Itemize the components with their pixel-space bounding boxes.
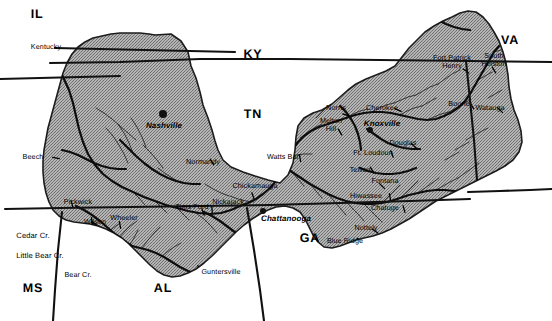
tributary-stream: [88, 227, 106, 246]
river-channel: [39, 22, 85, 41]
map-graphics-layer: [0, 0, 552, 321]
state-border: [247, 208, 264, 321]
state-border: [53, 212, 62, 321]
tributary-stream: [74, 222, 86, 248]
watershed-boundary-region: [43, 11, 522, 277]
tributary-stream: [78, 224, 89, 239]
dam-tick-marker: [51, 43, 56, 47]
tva-watershed-map: ILKYVATNGAALMSKentuckyBeechPickwickWilso…: [0, 0, 552, 321]
state-border: [468, 189, 552, 192]
dam-tick-marker: [83, 269, 89, 272]
tributary-stream: [262, 161, 286, 170]
